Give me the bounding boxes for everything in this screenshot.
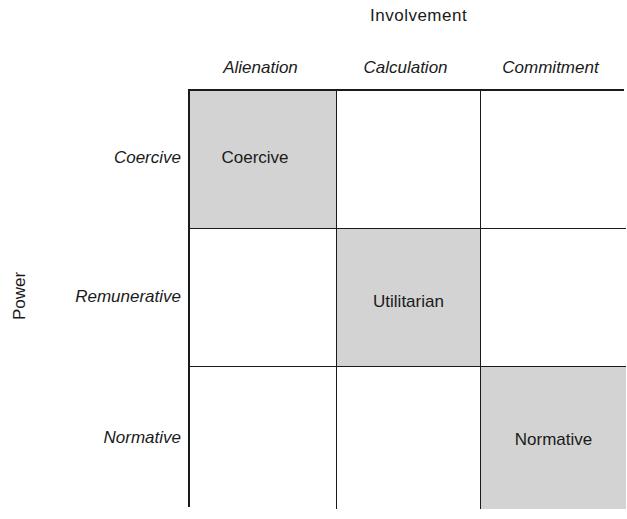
column-label-alienation: Alienation	[188, 58, 333, 78]
typology-matrix: Coercive Utilitarian Normative	[188, 89, 624, 507]
cell-normative-calculation	[337, 367, 481, 509]
cell-label-normative: Normative	[515, 430, 592, 450]
cell-coercive-calculation	[337, 91, 481, 229]
row-label-normative: Normative	[104, 428, 181, 448]
row-label-coercive: Coercive	[114, 148, 181, 168]
cell-normative-alienation	[190, 367, 337, 509]
cell-normative-commitment: Normative	[481, 367, 626, 509]
cell-coercive-alienation: Coercive	[190, 91, 337, 229]
cell-remunerative-alienation	[190, 229, 337, 367]
involvement-axis-title: Involvement	[370, 6, 467, 26]
cell-label-coercive: Coercive	[221, 148, 288, 168]
cell-remunerative-commitment	[481, 229, 626, 367]
cell-remunerative-calculation: Utilitarian	[337, 229, 481, 367]
cell-coercive-commitment	[481, 91, 626, 229]
row-label-remunerative: Remunerative	[75, 287, 181, 307]
power-axis-title: Power	[10, 266, 30, 326]
column-label-calculation: Calculation	[333, 58, 478, 78]
cell-label-utilitarian: Utilitarian	[373, 292, 444, 312]
column-label-commitment: Commitment	[478, 58, 623, 78]
